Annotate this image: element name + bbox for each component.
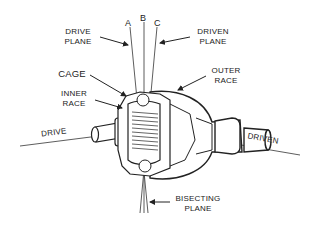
- bisecting-plane-label: BISECTING PLANE: [172, 194, 224, 214]
- cv-joint-illustration: [0, 0, 310, 229]
- driven-plane-label: DRIVEN PLANE: [191, 27, 235, 47]
- axis-label-c: C: [154, 18, 161, 28]
- cv-joint-diagram: A B C DRIVE PLANE DRIVEN PLANE CAGE INNE…: [0, 0, 310, 229]
- drive-plane-arrow: [100, 37, 128, 45]
- inner-race-label: INNER RACE: [56, 89, 92, 109]
- driven-plane-arrow: [160, 37, 190, 43]
- ball-top: [137, 94, 149, 106]
- axis-label-b: B: [140, 13, 146, 23]
- cage-arrow: [90, 75, 126, 96]
- drive-plane-label: DRIVE PLANE: [56, 27, 100, 47]
- outer-race-arrow: [178, 76, 206, 90]
- outer-race-label: OUTER RACE: [206, 66, 246, 86]
- cage-label: CAGE: [54, 69, 90, 79]
- axis-label-a: A: [125, 18, 131, 28]
- inner-race-arrow: [95, 100, 122, 108]
- ball-bottom: [139, 160, 151, 172]
